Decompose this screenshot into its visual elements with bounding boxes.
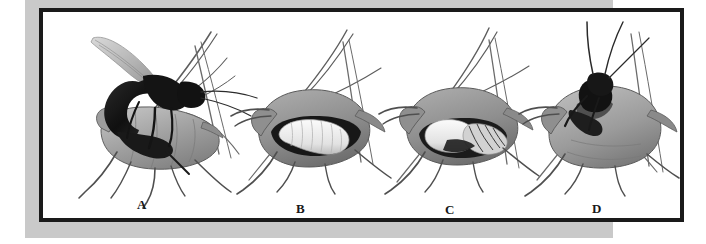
panel-d-illustration	[519, 22, 679, 196]
panel-b-illustration	[231, 30, 391, 194]
figure-plate: A B C D	[39, 8, 684, 222]
illustration-canvas	[43, 12, 680, 218]
panel-label-b: B	[296, 202, 305, 215]
wasp-antennae	[587, 22, 649, 78]
panel-label-a: A	[137, 198, 146, 211]
panel-c-illustration	[379, 28, 539, 194]
panel-label-d: D	[592, 202, 601, 215]
adult-wasp-head	[177, 82, 205, 108]
panel-a-illustration	[79, 32, 257, 208]
panel-label-c: C	[445, 203, 454, 216]
